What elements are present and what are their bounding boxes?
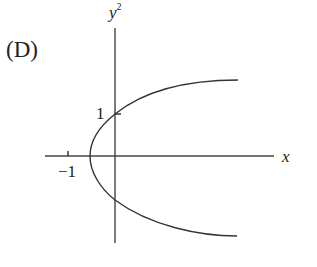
option-label: (D) bbox=[6, 38, 38, 61]
y-axis-label-base: y bbox=[109, 3, 117, 22]
x-tick-label-neg-one: −1 bbox=[58, 163, 76, 180]
parabola-curve bbox=[90, 80, 238, 236]
y-axis-label-power: 2 bbox=[117, 1, 122, 12]
y-axis-label: y2 bbox=[109, 3, 122, 21]
graph-canvas bbox=[0, 0, 317, 267]
y-intercept-label: 1 bbox=[96, 105, 105, 122]
x-axis-label: x bbox=[282, 148, 290, 165]
graph-figure: (D) y2 x 1 −1 bbox=[0, 0, 317, 267]
